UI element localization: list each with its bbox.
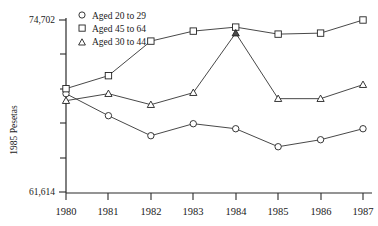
data-point-circle-1985 (275, 144, 281, 150)
data-point-square-1982 (148, 38, 154, 44)
x-axis-label-1985: 1985 (268, 206, 289, 217)
legend-label-2: Aged 30 to 44 (92, 37, 146, 47)
legend-label-1: Aged 45 to 64 (92, 24, 146, 34)
y-axis-ticks (59, 20, 66, 192)
data-point-circle-1986 (317, 137, 323, 143)
square-icon (79, 25, 85, 31)
legend-item-aged-20-to-29: Aged 20 to 29 (79, 11, 146, 21)
x-axis-label-1981: 1981 (98, 206, 119, 217)
y-axis-max-label: 74,702 (29, 15, 55, 25)
data-point-square-1986 (317, 30, 323, 36)
chart-container: 74,702 61,614 1985 Pesetas 1980 1981 198… (0, 0, 378, 226)
legend-label-0: Aged 20 to 29 (92, 11, 146, 21)
data-point-triangle-1983 (190, 89, 197, 95)
data-point-square-1985 (275, 31, 281, 37)
data-point-square-1987 (360, 17, 366, 23)
data-point-circle-1984 (233, 126, 239, 132)
circle-icon (79, 12, 85, 18)
legend-item-aged-45-to-64: Aged 45 to 64 (79, 24, 146, 34)
data-point-triangle-1987 (359, 81, 366, 87)
data-point-square-1981 (105, 72, 111, 78)
x-axis-label-1987: 1987 (353, 206, 374, 217)
legend-item-aged-30-to-44: Aged 30 to 44 (79, 37, 147, 47)
triangle-icon (79, 39, 86, 45)
line-chart-plot: 74,702 61,614 1985 Pesetas 1980 1981 198… (0, 0, 378, 226)
x-axis-label-1984: 1984 (226, 206, 248, 217)
x-axis-label-1980: 1980 (56, 206, 77, 217)
x-axis-label-1983: 1983 (183, 206, 204, 217)
x-axis-label-1986: 1986 (311, 206, 332, 217)
data-point-square-1983 (190, 28, 196, 34)
x-axis-label-1982: 1982 (141, 206, 162, 217)
x-axis-ticks (66, 193, 363, 200)
data-point-circle-1983 (190, 121, 196, 127)
chart-legend: Aged 20 to 29 Aged 45 to 64 Aged 30 to 4… (79, 11, 147, 47)
y-axis-min-label: 61,614 (29, 187, 55, 197)
data-point-circle-1981 (105, 112, 111, 118)
data-point-square-1980 (63, 85, 69, 91)
y-axis-title: 1985 Pesetas (9, 105, 19, 155)
data-point-circle-1982 (148, 133, 154, 139)
data-point-triangle-1981 (105, 90, 112, 96)
data-point-circle-1987 (360, 126, 366, 132)
